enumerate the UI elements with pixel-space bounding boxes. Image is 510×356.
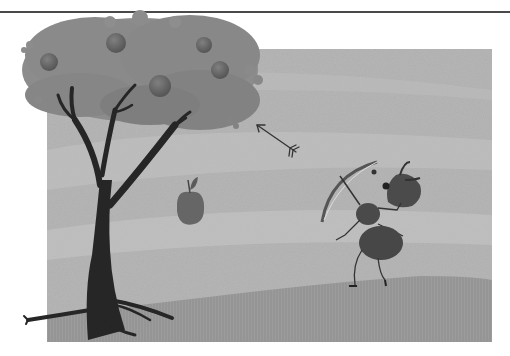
apple-icon: [40, 53, 58, 71]
apple-icon: [149, 75, 171, 97]
apple-icon: [106, 33, 126, 53]
storybook-illustration: [0, 0, 510, 356]
apple-icon: [196, 37, 212, 53]
top-rule: [0, 11, 510, 13]
apple-icon: [211, 61, 229, 79]
